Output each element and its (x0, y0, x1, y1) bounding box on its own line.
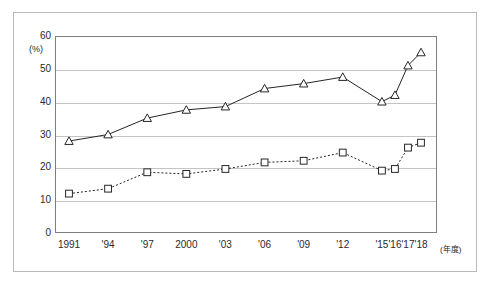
y-axis-tick-label: 50 (25, 64, 51, 74)
data-point-marker (405, 144, 412, 151)
x-axis-tick-label: '18 (414, 239, 427, 250)
figure-caption (42, 0, 372, 3)
data-point-marker (300, 157, 307, 164)
y-axis-tick-label: 60 (25, 31, 51, 41)
data-point-marker (392, 166, 399, 173)
data-point-marker (339, 73, 347, 81)
x-axis-tick-label: '17 (401, 239, 414, 250)
data-point-marker (379, 167, 386, 174)
data-point-marker (105, 185, 112, 192)
data-point-marker (104, 130, 112, 138)
x-axis-tick-label: '06 (258, 239, 271, 250)
data-point-marker (418, 139, 425, 146)
x-axis-tick-label: '09 (297, 239, 310, 250)
chart-figure: 0102030405060 (%) 1991'94'972000'03'06'0… (0, 0, 491, 289)
series-line-square-series (69, 143, 421, 194)
x-axis-tick-label: '12 (336, 239, 349, 250)
data-point-marker (391, 91, 399, 99)
y-axis-unit-label: (%) (29, 45, 43, 54)
y-axis-tick-labels: 0102030405060 (21, 36, 51, 233)
x-axis-tick-label: 1991 (58, 239, 80, 250)
x-axis-tick-label: '15 (375, 239, 388, 250)
data-point-marker (221, 102, 229, 110)
x-axis-tick-label: '97 (141, 239, 154, 250)
chart-plot-svg (55, 36, 437, 233)
x-axis-unit-label: (年度) (440, 245, 461, 254)
data-point-marker (144, 169, 151, 176)
data-point-marker (66, 190, 73, 197)
x-axis-tick-label: 2000 (175, 239, 197, 250)
x-axis-tick-label: '03 (219, 239, 232, 250)
y-axis-tick-label: 30 (25, 130, 51, 140)
y-axis-tick-label: 10 (25, 195, 51, 205)
data-point-marker (417, 48, 425, 56)
data-point-marker (183, 171, 190, 178)
y-axis-tick-label: 20 (25, 162, 51, 172)
series-line-triangle-series (69, 52, 421, 141)
y-axis-tick-label: 40 (25, 97, 51, 107)
data-point-marker (339, 149, 346, 156)
x-axis-tick-label: '94 (102, 239, 115, 250)
x-axis-tick-labels: 1991'94'972000'03'06'09'12'15'16'17'18 (55, 239, 437, 255)
y-axis-tick-label: 0 (25, 228, 51, 238)
data-point-marker (222, 166, 229, 173)
x-axis-tick-label: '16 (388, 239, 401, 250)
data-point-marker (378, 97, 386, 105)
data-point-marker (261, 159, 268, 166)
